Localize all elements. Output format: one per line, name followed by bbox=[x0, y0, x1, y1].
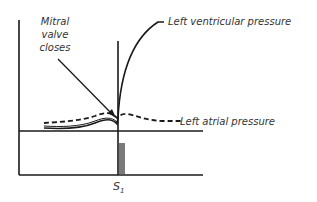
lv-pressure-label: Left ventricular pressure bbox=[168, 16, 291, 27]
s1-label: S1 bbox=[113, 180, 124, 195]
mitral-label-line2: valve bbox=[42, 29, 69, 40]
pressure-diagram: Mitral valve closes Left ventricular pre… bbox=[0, 0, 317, 202]
mitral-arrow bbox=[58, 59, 113, 115]
s1-sound-bar bbox=[119, 143, 125, 174]
mitral-label-line3: closes bbox=[40, 42, 71, 53]
mitral-label-line1: Mitral bbox=[41, 16, 70, 27]
la-pressure-label: Left atrial pressure bbox=[180, 116, 275, 127]
